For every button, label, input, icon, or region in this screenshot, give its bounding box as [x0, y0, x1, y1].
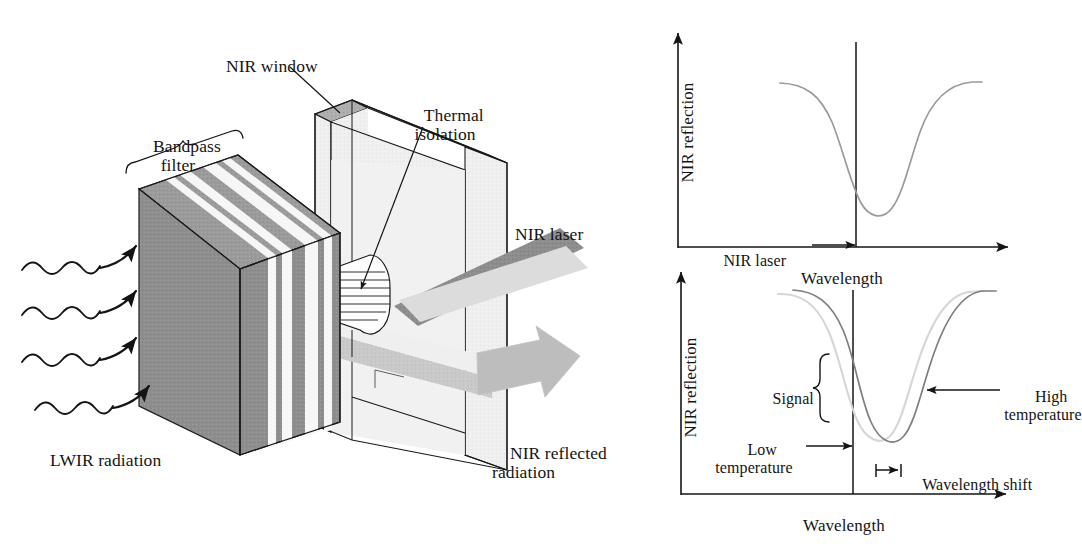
top-chart-y-axis-label-text: NIR reflection	[678, 83, 697, 183]
bottom-chart-wavelength-shift-annotation: Wavelength shift	[906, 458, 1032, 512]
bandpass-filter-block	[139, 155, 340, 455]
thermal-isolation-label-text: Thermalisolation	[414, 105, 483, 145]
bottom-chart-wavelength-shift-annotation-text: Wavelength shift	[922, 476, 1032, 493]
bottom-chart-low-temperature-annotation: Lowtemperature	[700, 423, 808, 495]
lwir-radiation-waves	[22, 262, 113, 414]
lwir-wave-3	[22, 354, 100, 366]
bottom-chart-x-axis-label: Wavelength	[786, 497, 885, 554]
figure-canvas: Bandpassfilter NIR window Thermalisolati…	[0, 0, 1082, 555]
lwir-arrow-2	[100, 291, 136, 313]
bottom-chart-low-temperature-annotation-text: Lowtemperature	[715, 441, 793, 476]
lwir-radiation-label: LWIR radiation	[32, 431, 161, 490]
bottom-chart-high-temperature-curve	[793, 290, 996, 442]
bottom-chart-high-temperature-annotation-text: Hightemperature	[1004, 388, 1082, 423]
bottom-chart-y-axis-label-text: NIR reflection	[681, 338, 700, 438]
nir-window-label: NIR window	[208, 37, 318, 96]
nir-laser-label-text: NIR laser	[515, 224, 583, 244]
lwir-arrow-1	[100, 246, 136, 268]
bottom-chart-wavelength-shift-span	[876, 464, 901, 477]
nir-window-label-text: NIR window	[226, 56, 318, 76]
bottom-chart-high-temperature-annotation: Hightemperature	[1003, 370, 1082, 442]
nir-laser-label: NIR laser	[497, 205, 583, 264]
top-chart-x-axis-label-text: Wavelength	[801, 269, 883, 288]
lwir-radiation-label-text: LWIR radiation	[50, 450, 161, 470]
bottom-chart-signal-brace	[813, 354, 829, 422]
lwir-arrow-3	[100, 338, 136, 360]
top-chart-x-axis-label: Wavelength	[784, 250, 883, 307]
bandpass-filter-label: Bandpassfilter	[123, 117, 233, 195]
top-chart-nir-laser-annotation: NIR laser	[707, 234, 786, 288]
lwir-wave-2	[22, 307, 100, 319]
thermal-isolation-label: Thermalisolation	[385, 86, 505, 164]
thermal-isolation-body	[337, 255, 390, 334]
nir-reflected-radiation-label: NIR reflectedradiation	[492, 424, 607, 502]
top-chart-nir-laser-annotation-text: NIR laser	[723, 252, 786, 269]
lwir-wave-1	[22, 262, 100, 274]
bottom-chart-x-axis-label-text: Wavelength	[803, 516, 885, 535]
top-chart-axes	[678, 33, 1008, 248]
bandpass-filter-label-text: Bandpassfilter	[153, 136, 221, 176]
top-chart-reflection-curve	[780, 82, 982, 216]
lwir-wave-4	[35, 402, 113, 414]
nir-reflected-radiation-label-text: NIR reflectedradiation	[492, 443, 607, 483]
window-right-post-face	[465, 147, 507, 470]
bottom-chart-signal-annotation: Signal	[756, 372, 814, 426]
top-chart-y-axis-label: NIR reflection	[659, 83, 716, 200]
bottom-chart-signal-annotation-text: Signal	[772, 390, 814, 407]
